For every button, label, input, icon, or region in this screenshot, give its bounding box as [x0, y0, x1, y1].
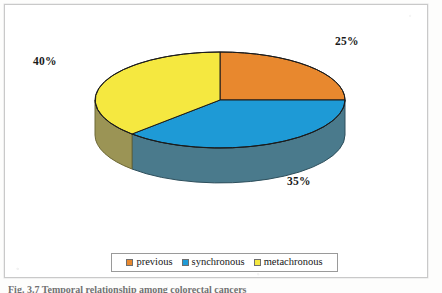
pie-slice-previous[interactable]	[220, 52, 345, 100]
figure-caption-text: Fig. 3.7 Temporal relationship among col…	[8, 284, 438, 293]
legend-swatch-metachronous	[254, 259, 261, 266]
chart-legend: previous synchronous metachronous	[111, 253, 338, 272]
figure-frame: 25% 35% 40% previous synchronous metachr…	[4, 4, 428, 278]
legend-item-synchronous[interactable]: synchronous	[182, 257, 245, 268]
data-label-previous: 25%	[335, 35, 359, 47]
pie-chart: 25% 35% 40%	[5, 5, 442, 245]
legend-label-metachronous: metachronous	[264, 257, 323, 268]
legend-label-synchronous: synchronous	[192, 257, 245, 268]
pie-top-faces	[95, 52, 345, 148]
data-label-metachronous: 40%	[33, 55, 57, 67]
pie-chart-svg	[5, 5, 442, 245]
figure-caption: Fig. 3.7 Temporal relationship among col…	[8, 284, 438, 293]
legend-label-previous: previous	[136, 257, 172, 268]
legend-item-metachronous[interactable]: metachronous	[254, 257, 323, 268]
data-label-synchronous: 35%	[287, 175, 311, 187]
legend-swatch-previous	[126, 259, 133, 266]
legend-swatch-synchronous	[182, 259, 189, 266]
legend-item-previous[interactable]: previous	[126, 257, 172, 268]
